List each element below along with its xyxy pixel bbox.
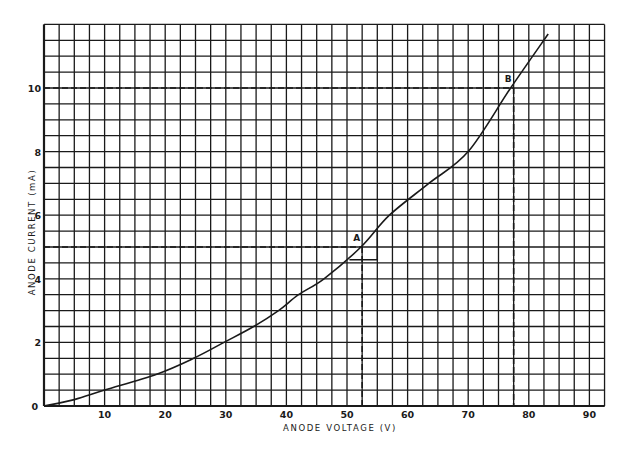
x-tick-label: 60 bbox=[401, 409, 415, 420]
x-tick-label: 80 bbox=[522, 409, 536, 420]
y-tick-label: 10 bbox=[28, 83, 42, 94]
x-tick-label: 10 bbox=[98, 409, 112, 420]
x-tick-label: 90 bbox=[583, 409, 597, 420]
anode-characteristic-chart: 102030405060708090 0246810 ANODE VOLTAGE… bbox=[0, 0, 632, 457]
x-tick-label: 70 bbox=[462, 409, 476, 420]
x-tick-label: 40 bbox=[280, 409, 294, 420]
y-tick-label: 2 bbox=[34, 337, 41, 348]
x-axis-title: ANODE VOLTAGE (V) bbox=[283, 423, 397, 433]
x-tick-labels: 102030405060708090 bbox=[98, 409, 596, 420]
y-axis-title: ANODE CURRENT (mA) bbox=[27, 169, 37, 296]
y-tick-label: 8 bbox=[34, 147, 41, 158]
y-tick-label: 0 bbox=[31, 401, 38, 412]
x-tick-label: 20 bbox=[159, 409, 173, 420]
x-tick-label: 30 bbox=[219, 409, 233, 420]
chart-grid bbox=[44, 24, 605, 406]
x-tick-label: 50 bbox=[340, 409, 354, 420]
point-a-label: A bbox=[353, 233, 360, 243]
point-b-label: B bbox=[505, 74, 512, 84]
